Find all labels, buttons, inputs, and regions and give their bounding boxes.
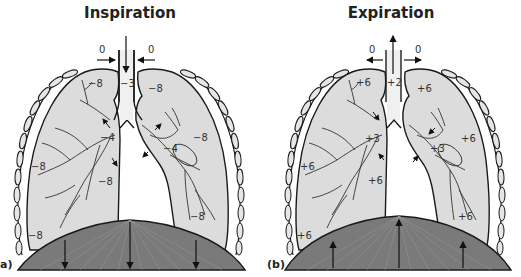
pressure-left-lower: +6 <box>297 230 312 241</box>
panel-inspiration: Inspiration <box>0 0 260 277</box>
panel-label-a: a) <box>0 258 12 271</box>
pressure-trachea: −3 <box>120 78 135 89</box>
pressure-left-bronchus: +3 <box>365 133 380 144</box>
pressure-left-center: −8 <box>98 176 113 187</box>
pressure-right-bronchus: −4 <box>163 143 178 154</box>
pressure-left-mid: −8 <box>31 161 46 172</box>
pressure-trachea: +2 <box>387 77 402 88</box>
pressure-left-bronchus: −4 <box>100 132 115 143</box>
panel-label-b: (b) <box>267 258 285 271</box>
pressure-right-upper: +6 <box>417 83 432 94</box>
pressure-right-mid: −8 <box>193 132 208 143</box>
pressure-right-lower: +6 <box>458 211 473 222</box>
pressure-left-upper: +6 <box>356 77 371 88</box>
pressure-left-center: +6 <box>368 175 383 186</box>
pressure-atmosphere-right: 0 <box>415 44 421 55</box>
pressure-atmosphere-left: 0 <box>369 44 375 55</box>
pressure-right-upper: −8 <box>148 83 163 94</box>
pressure-left-lower: −8 <box>28 230 43 241</box>
pressure-left-mid: +6 <box>300 161 315 172</box>
panel-expiration: Expiration <box>261 0 521 277</box>
pressure-right-mid: +6 <box>461 133 476 144</box>
pressure-atmosphere-left: 0 <box>99 44 105 55</box>
airflow-arrows <box>97 36 155 72</box>
pressure-right-bronchus: +3 <box>430 143 445 154</box>
pressure-atmosphere-right: 0 <box>148 44 154 55</box>
pressure-left-upper: −8 <box>88 78 103 89</box>
pressure-right-lower: −8 <box>190 211 205 222</box>
